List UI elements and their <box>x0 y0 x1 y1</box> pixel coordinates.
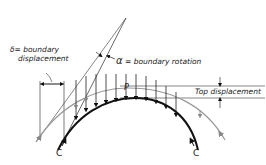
point-p-label: P <box>124 83 129 92</box>
top-displacement-label: Top displacement <box>195 87 261 96</box>
diagram-canvas <box>0 0 266 165</box>
rotation-lines <box>36 18 126 142</box>
delta-label: δ= boundary displacement <box>10 45 69 63</box>
delta-eq-text: = boundary <box>15 45 59 54</box>
original-arch <box>58 98 198 150</box>
crown-left-label: C <box>56 148 62 158</box>
crown-right-label: C <box>193 148 199 158</box>
alpha-symbol: α <box>116 55 123 66</box>
alpha-text: = boundary rotation <box>123 57 202 66</box>
alpha-label: α = boundary rotation <box>116 55 201 66</box>
delta-line2: displacement <box>10 54 69 63</box>
arch-displacement-diagram: δ= boundary displacement α = boundary ro… <box>0 0 266 165</box>
delta-dimension <box>40 73 64 138</box>
